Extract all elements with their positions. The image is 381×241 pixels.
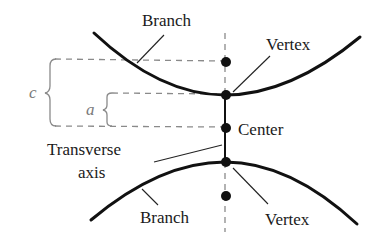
c-brace <box>45 59 56 126</box>
vertex-bottom-dot <box>221 157 231 167</box>
transverse-axis-leader <box>154 145 222 162</box>
vertex-top-leader <box>233 56 270 92</box>
branch-top-label: Branch <box>142 11 192 30</box>
branch-bottom-leader <box>142 189 158 205</box>
branch-bottom-label: Branch <box>140 208 190 227</box>
center-guide <box>55 126 225 127</box>
center-dot <box>221 123 231 133</box>
vertex-bottom-leader <box>233 168 268 204</box>
vertex-bottom-label: Vertex <box>265 210 310 229</box>
center-label: Center <box>238 120 284 139</box>
focus-bottom-dot <box>221 191 231 201</box>
vertex-top-label: Vertex <box>266 35 311 54</box>
branch-top-leader <box>137 35 164 63</box>
transverse-axis-label-line2: axis <box>78 163 105 182</box>
hyperbola-diagram: c a Branch Vertex Center Transverse axis… <box>0 0 381 241</box>
transverse-axis-label-line1: Transverse <box>47 140 121 159</box>
c-label: c <box>29 83 37 102</box>
a-label: a <box>86 100 95 119</box>
vertex-top-dot <box>221 90 231 100</box>
focus-top-dot <box>221 57 231 67</box>
a-brace <box>103 93 112 126</box>
